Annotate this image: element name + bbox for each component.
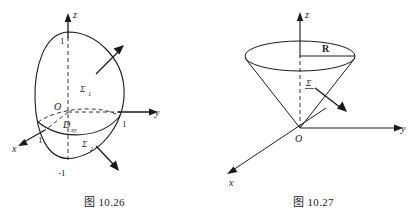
x-axis-label: x: [11, 143, 17, 154]
z-axis-label: z: [304, 9, 309, 20]
upper-normal-arrowhead: [114, 45, 125, 55]
upper-surface-subscript: 1: [88, 90, 91, 97]
figure-10-27-caption-prefix: 图: [293, 196, 304, 208]
figure-10-27-drawing: z y x O R Σ: [209, 0, 418, 190]
figure-10-26-caption-number: 10.26: [99, 196, 125, 208]
projection-region-label: D: [62, 119, 71, 130]
figure-10-27: z y x O R Σ 图 10.27: [209, 0, 418, 215]
figure-10-27-caption: 图 10.27: [209, 193, 418, 209]
radius-label: R: [322, 43, 330, 54]
z-axis-arrowhead: [297, 12, 303, 21]
sphere-outline: [35, 32, 124, 159]
normal-arrow-shaft: [315, 88, 341, 108]
cone-right-slant: [300, 58, 355, 128]
surface-label: Σ: [305, 78, 312, 88]
origin-label: O: [295, 133, 302, 144]
y-tick-one-label: 1: [122, 119, 127, 129]
z-axis-arrowhead: [65, 13, 72, 22]
figure-10-26-caption: 图 10.26: [0, 193, 209, 209]
projection-region-subscript: xy: [70, 126, 77, 133]
normal-arrowhead: [337, 102, 347, 113]
z-axis-label: z: [72, 9, 77, 20]
upper-surface-label: Σ: [79, 84, 86, 94]
figure-10-26-drawing: z 1 -1 y 1 x 1 O Σ 1 Σ 2 D xy: [0, 0, 209, 190]
origin-label: O: [54, 101, 61, 112]
figure-10-26-caption-prefix: 图: [84, 196, 95, 208]
z-tick-bottom-label: -1: [58, 168, 66, 178]
lower-surface-subscript: 2: [90, 145, 94, 152]
lower-surface-label: Σ: [81, 139, 88, 149]
equator-back-arc-dashed: [38, 109, 120, 122]
x-axis-line: [233, 108, 326, 170]
y-axis-label: y: [400, 123, 406, 134]
figure-page: z 1 -1 y 1 x 1 O Σ 1 Σ 2 D xy 图 10.26: [0, 0, 418, 215]
x-axis-label: x: [228, 177, 234, 188]
figure-10-27-caption-number: 10.27: [308, 196, 334, 208]
lower-normal-arrow-shaft: [96, 146, 115, 166]
x-tick-one-label: 1: [38, 135, 43, 145]
figure-10-26: z 1 -1 y 1 x 1 O Σ 1 Σ 2 D xy 图 10.26: [0, 0, 209, 215]
z-tick-top-label: 1: [60, 36, 65, 46]
equator-front-arc: [38, 116, 120, 135]
y-axis-label: y: [154, 107, 160, 118]
cone-left-slant: [245, 58, 300, 128]
